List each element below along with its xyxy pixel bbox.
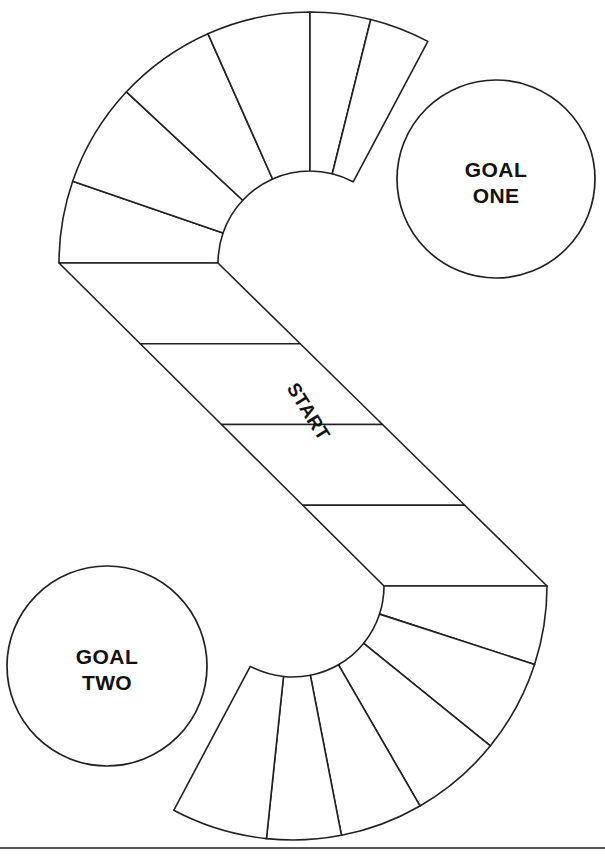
goal-one-label-line1: GOAL bbox=[465, 158, 527, 181]
track-cell[interactable] bbox=[59, 263, 300, 344]
game-board-canvas: GOAL ONE GOAL TWO START bbox=[0, 0, 605, 856]
goal-two-label-line2: TWO bbox=[82, 671, 132, 694]
track-cell[interactable] bbox=[222, 425, 465, 506]
goal-one-node[interactable]: GOAL ONE bbox=[397, 80, 595, 278]
board-svg: GOAL ONE GOAL TWO START bbox=[0, 0, 605, 856]
goal-one-label-line2: ONE bbox=[473, 184, 520, 207]
track-cell[interactable] bbox=[140, 344, 382, 425]
middle-band-track bbox=[59, 263, 547, 586]
upper-arc-track bbox=[59, 12, 428, 263]
goal-two-node[interactable]: GOAL TWO bbox=[7, 566, 207, 766]
track-cell[interactable] bbox=[303, 505, 547, 586]
goal-two-label-line1: GOAL bbox=[76, 645, 138, 668]
lower-arc-track bbox=[174, 586, 547, 840]
